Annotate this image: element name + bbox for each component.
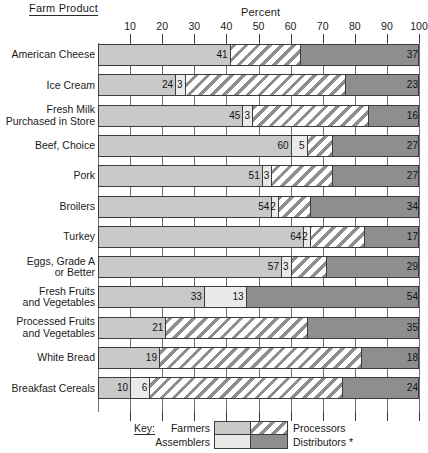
bar-segment-value: 33 [191, 292, 202, 302]
x-tick-label-70: 70 [317, 20, 329, 32]
stacked-bar: 54234 [98, 196, 419, 218]
bar-segment-distributors: 34 [311, 197, 419, 217]
bar-segment-farmers: 54 [99, 197, 272, 217]
bar-segment-assemblers: 5 [292, 136, 308, 156]
bar-segment-distributors: 37 [301, 45, 419, 65]
x-tick-mark-top-60 [291, 34, 292, 43]
bar-segment-farmers: 10 [99, 378, 131, 398]
bar-segment-value: 37 [407, 50, 418, 60]
row-label: Fresh MilkPurchased in Store [6, 104, 95, 127]
chart-row: Fresh MilkPurchased in Store45316 [0, 105, 428, 127]
bar-segment-processors [279, 197, 311, 217]
stacked-bar: 4137 [98, 44, 419, 66]
x-tick-mark-bottom-100 [419, 412, 420, 421]
bar-segment-value: 29 [407, 262, 418, 272]
legend-label-distributors: Distributors * [293, 436, 353, 448]
x-tick-label-90: 90 [381, 20, 393, 32]
bar-segment-value: 35 [407, 323, 418, 333]
chart-row: Fresh Fruitsand Vegetables331354 [0, 286, 428, 308]
row-label-line: Processed Fruits [16, 316, 95, 328]
bar-segment-distributors: 54 [247, 287, 419, 307]
bar-segment-value: 57 [268, 262, 279, 272]
bar-segment-farmers: 64 [99, 227, 304, 247]
row-label: Turkey [63, 231, 95, 243]
bar-segment-farmers: 41 [99, 45, 231, 65]
row-label: Processed Fruitsand Vegetables [16, 316, 95, 339]
plot-area: American Cheese4137Ice Cream24323Fresh M… [0, 43, 428, 412]
row-label: American Cheese [12, 49, 95, 61]
x-tick-mark-bottom-60 [291, 412, 292, 421]
x-tick-mark-bottom-20 [162, 412, 163, 421]
bar-segment-value: 2 [270, 202, 276, 212]
stacked-bar: 331354 [98, 286, 419, 308]
x-tick-mark-bottom-70 [323, 412, 324, 421]
chart-row: American Cheese4137 [0, 44, 428, 66]
bar-segment-processors [272, 166, 333, 186]
x-tick-mark-top-80 [355, 34, 356, 43]
chart-row: Broilers54234 [0, 196, 428, 218]
chart-row: Pork51327 [0, 165, 428, 187]
x-tick-mark-top-40 [226, 34, 227, 43]
row-label-line: Purchased in Store [6, 116, 95, 128]
bar-segment-value: 27 [407, 171, 418, 181]
legend-swatch-distributors [251, 435, 287, 448]
chart-row: White Bread1918 [0, 347, 428, 369]
bar-segment-farmers: 45 [99, 106, 243, 126]
bar-segment-value: 13 [233, 292, 244, 302]
bar-segment-distributors: 18 [362, 348, 419, 368]
chart-row: Beef, Choice60527 [0, 135, 428, 157]
bar-segment-value: 5 [299, 141, 305, 151]
row-label-line: Breakfast Cereals [12, 383, 95, 395]
bar-segment-value: 41 [216, 50, 227, 60]
bar-segment-assemblers: 3 [263, 166, 273, 186]
row-label: Eggs, Grade Aor Better [27, 256, 95, 279]
bar-segment-assemblers: 3 [176, 75, 186, 95]
bar-segment-value: 16 [407, 111, 418, 121]
stacked-bar: 45316 [98, 105, 419, 127]
legend-label-processors: Processors [293, 422, 346, 434]
row-label-line: Beef, Choice [35, 140, 95, 152]
bar-segment-farmers: 33 [99, 287, 205, 307]
x-tick-mark-top-90 [387, 34, 388, 43]
x-tick-mark-bottom-10 [130, 412, 131, 421]
row-label-line: American Cheese [12, 49, 95, 61]
x-tick-mark-top-20 [162, 34, 163, 43]
bar-segment-value: 3 [245, 111, 251, 121]
percent-axis-title: Percent [241, 6, 280, 18]
bar-segment-distributors: 27 [333, 136, 419, 156]
chart-row: Ice Cream24323 [0, 74, 428, 96]
bar-segment-value: 51 [249, 171, 260, 181]
bar-segment-value: 3 [177, 80, 183, 90]
bar-segment-farmers: 51 [99, 166, 263, 186]
stacked-bar: 10624 [98, 377, 419, 399]
bar-segment-processors [231, 45, 302, 65]
x-tick-mark-bottom-40 [226, 412, 227, 421]
bar-segment-value: 19 [146, 353, 157, 363]
chart-row: Processed Fruitsand Vegetables2135 [0, 317, 428, 339]
x-tick-mark-bottom-90 [387, 412, 388, 421]
x-axis-ticks-top [0, 34, 428, 43]
row-label-line: Ice Cream [47, 80, 95, 92]
bar-segment-value: 24 [162, 80, 173, 90]
bar-segment-value: 3 [264, 171, 270, 181]
bar-segment-assemblers: 13 [205, 287, 247, 307]
legend-label-assemblers: Assemblers [118, 436, 210, 448]
row-label: White Bread [37, 352, 95, 364]
x-tick-mark-top-50 [259, 34, 260, 43]
farm-product-axis-title: Farm Product [29, 2, 98, 16]
bar-segment-assemblers: 6 [131, 378, 150, 398]
bar-segment-assemblers: 3 [282, 257, 292, 277]
bar-segment-processors [186, 75, 347, 95]
x-tick-mark-top-70 [323, 34, 324, 43]
bar-segment-farmers: 57 [99, 257, 282, 277]
bar-segment-distributors: 29 [327, 257, 419, 277]
bar-segment-value: 54 [407, 292, 418, 302]
bar-segment-value: 2 [302, 232, 308, 242]
legend-swatch-processors [251, 422, 287, 435]
bar-segment-value: 21 [152, 323, 163, 333]
chart-row: Turkey64217 [0, 226, 428, 248]
bar-segment-distributors: 35 [308, 318, 419, 338]
bar-segment-farmers: 24 [99, 75, 176, 95]
stacked-bar: 24323 [98, 74, 419, 96]
bar-segment-value: 60 [277, 141, 288, 151]
